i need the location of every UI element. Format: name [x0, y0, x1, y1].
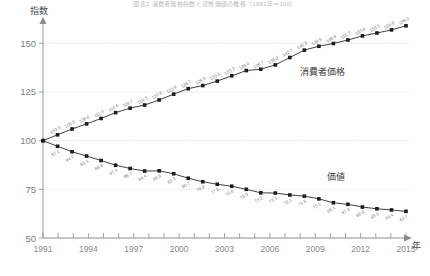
x-tick-label: 2009: [306, 244, 325, 254]
data-point-label: 87.4: [108, 167, 118, 176]
data-point-label: 84.5: [152, 173, 162, 182]
data-point-label: 92.1: [79, 158, 89, 167]
data-point-marker: [288, 193, 292, 197]
data-point-marker: [303, 194, 307, 198]
series-annotations-layer: 消費者価格価値: [300, 66, 345, 182]
x-tick-label: 1994: [79, 244, 98, 254]
y-tick-label: 125: [20, 86, 36, 97]
data-point-label: 106.0: [64, 119, 76, 129]
data-point-marker: [274, 63, 278, 67]
data-point-label: 130.6: [209, 71, 221, 81]
data-point-marker: [346, 38, 350, 42]
data-point-marker: [390, 208, 394, 212]
data-point-label: 146.5: [296, 40, 308, 50]
y-tick-label: 75: [25, 184, 36, 195]
data-point-label: 136.0: [238, 61, 250, 71]
data-point-label: 78.9: [196, 184, 206, 193]
data-point-marker: [186, 176, 190, 180]
axes-group: [40, 17, 413, 242]
chart-container: 図表1 消費者価格指数と貨幣価値の推移（1991年＝100） 199119941…: [0, 0, 430, 276]
data-point-label: 64.4: [384, 212, 394, 221]
data-point-marker: [215, 79, 219, 83]
data-point-marker: [317, 44, 321, 48]
data-point-marker: [230, 74, 234, 78]
data-point-label: 84.4: [137, 173, 147, 182]
x-tick-group: 199119941997200020032006200920122015: [34, 233, 416, 254]
data-point-marker: [128, 167, 132, 171]
data-point-marker: [346, 203, 350, 207]
data-point-marker: [215, 182, 219, 186]
data-point-marker: [143, 169, 147, 173]
series-annotation-value: 価値: [327, 171, 345, 182]
data-point-label: 114.4: [107, 103, 119, 113]
data-point-marker: [41, 139, 45, 143]
data-point-marker: [259, 67, 263, 71]
data-point-label: 151.7: [340, 30, 352, 40]
x-tick-label: 1997: [124, 244, 143, 254]
data-point-marker: [375, 31, 379, 35]
data-point-label: 136.7: [253, 59, 265, 69]
y-tick-label: 150: [20, 38, 36, 49]
data-point-marker: [303, 48, 307, 52]
data-point-marker: [99, 159, 103, 163]
data-point-label: 159.0: [398, 16, 410, 26]
data-point-marker: [70, 127, 74, 131]
data-point-marker: [201, 180, 205, 184]
data-point-marker: [114, 163, 118, 167]
x-tick-label: 2006: [260, 244, 279, 254]
data-point-marker: [128, 106, 132, 110]
data-point-label: 116.7: [122, 98, 134, 108]
data-point-marker: [404, 24, 408, 28]
data-point-label: 89.8: [94, 163, 104, 172]
data-point-label: 77.6: [210, 186, 220, 195]
data-point-label: 75.0: [239, 191, 249, 200]
data-point-label: 153.8: [354, 26, 366, 36]
data-point-label: 94.3: [65, 154, 75, 163]
data-point-marker: [375, 207, 379, 211]
data-point-label: 65.0: [370, 211, 380, 220]
data-point-marker: [244, 69, 248, 73]
point-labels-layer: 103.0106.0108.6111.4114.4116.7118.3120.9…: [49, 16, 410, 223]
data-point-marker: [361, 205, 365, 209]
data-point-marker: [56, 145, 60, 149]
data-point-marker: [259, 191, 263, 195]
data-point-marker: [157, 169, 161, 173]
data-point-label: 155.3: [369, 23, 381, 33]
y-tick-group: 5075100125150: [20, 38, 43, 244]
data-point-marker: [114, 111, 118, 115]
data-point-marker: [390, 28, 394, 32]
data-point-label: 123.9: [165, 84, 177, 94]
y-axis-arrow: [40, 17, 47, 24]
x-tick-label: 2000: [170, 244, 189, 254]
x-axis-title: 年: [412, 240, 421, 251]
data-point-marker: [317, 197, 321, 201]
data-point-marker: [186, 87, 190, 91]
data-point-label: 118.3: [137, 95, 149, 105]
data-point-label: 68.1: [326, 205, 336, 214]
y-axis-title: 指数: [30, 5, 48, 16]
chart-plot-area: 199119941997200020032006200920122015 507…: [0, 0, 430, 276]
data-point-label: 126.7: [180, 79, 192, 89]
data-point-marker: [361, 34, 365, 38]
data-point-label: 156.9: [383, 20, 395, 30]
data-point-label: 111.4: [93, 109, 105, 119]
data-point-label: 71.5: [297, 198, 307, 207]
data-point-label: 73.1: [268, 195, 278, 204]
series-line-value: [43, 141, 406, 212]
data-point-label: 73.2: [254, 195, 264, 204]
data-point-label: 85.7: [123, 171, 133, 180]
x-tick-label: 2012: [351, 244, 370, 254]
data-point-label: 97.1: [50, 148, 60, 157]
data-point-label: 128.3: [194, 76, 206, 86]
series-annotation-consumer-price: 消費者価格: [300, 66, 345, 77]
data-point-marker: [56, 133, 60, 137]
data-point-marker: [274, 191, 278, 195]
data-point-label: 149.9: [325, 34, 337, 44]
data-point-marker: [85, 122, 89, 126]
x-tick-label: 2003: [215, 244, 234, 254]
data-point-label: 67.3: [341, 206, 351, 215]
data-point-marker: [332, 201, 336, 205]
data-point-marker: [230, 184, 234, 188]
data-point-marker: [70, 150, 74, 154]
data-point-label: 108.6: [78, 114, 90, 124]
